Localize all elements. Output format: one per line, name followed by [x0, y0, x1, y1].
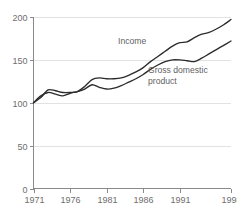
y-tick-label: 50	[17, 142, 27, 152]
x-tick-label: 1991	[170, 195, 190, 205]
x-tick-label: 1976	[60, 195, 80, 205]
y-axis-ticks-group	[30, 18, 34, 190]
gdp-series-label-line2: product	[148, 76, 177, 86]
x-tick-label: 1986	[133, 195, 153, 205]
y-tick-label: 0	[22, 185, 27, 195]
line-chart: 050100150200 197119761981198619911998 In…	[0, 0, 237, 211]
x-axis-ticks-group	[35, 189, 232, 193]
y-axis-labels-group: 050100150200	[12, 13, 27, 195]
x-tick-label: 1981	[97, 195, 117, 205]
y-tick-label: 150	[12, 56, 27, 66]
y-tick-label: 200	[12, 13, 27, 23]
x-axis-labels-group: 197119761981198619911998	[24, 195, 237, 205]
income-series-label: Income	[118, 36, 146, 46]
income-line	[34, 20, 232, 103]
chart-canvas: 050100150200 197119761981198619911998 In…	[0, 0, 237, 211]
x-tick-label: 1998	[221, 195, 237, 205]
x-tick-label: 1971	[24, 195, 44, 205]
gdp-series-label-line1: Gross domestic	[148, 65, 208, 75]
y-tick-label: 100	[12, 99, 27, 109]
